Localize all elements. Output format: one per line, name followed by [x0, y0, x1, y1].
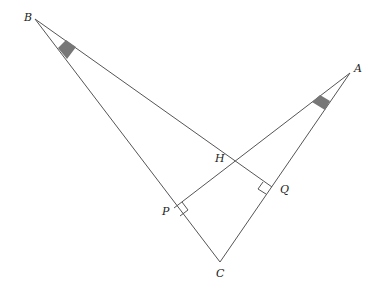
label-B: B [24, 12, 32, 23]
label-Q: Q [280, 184, 289, 195]
label-H: H [215, 153, 225, 164]
geometry-diagram: B A H Q P C [0, 0, 382, 294]
angle-mark-B [58, 40, 76, 59]
right-angle-mark-Q [258, 182, 266, 194]
diagram-lines [0, 0, 382, 294]
label-A: A [354, 63, 362, 74]
angle-mark-A [312, 95, 330, 110]
segment-BC [35, 19, 220, 262]
label-C: C [216, 268, 224, 279]
segment-AC [220, 73, 350, 262]
segment-AP [174, 73, 350, 208]
label-P: P [162, 206, 169, 217]
